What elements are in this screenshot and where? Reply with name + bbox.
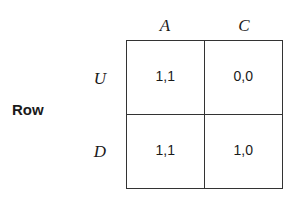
row-header-u: U [84, 67, 116, 91]
payoff-matrix-figure: Row A C U D 1,1 0,0 1,1 1,0 [0, 0, 295, 200]
row-player-label: Row [12, 99, 72, 121]
payoff-matrix-grid: 1,1 0,0 1,1 1,0 [126, 40, 283, 189]
matrix-cell-u-c: 0,0 [205, 41, 283, 115]
matrix-cell-u-a: 1,1 [127, 41, 205, 115]
column-header-c: C [205, 14, 283, 38]
payoff-value: 1,1 [156, 142, 175, 158]
matrix-cell-d-a: 1,1 [127, 115, 205, 189]
matrix-cell-d-c: 1,0 [205, 115, 283, 189]
column-header-a: A [126, 14, 204, 38]
payoff-value: 1,0 [234, 142, 253, 158]
payoff-value: 0,0 [234, 68, 253, 84]
payoff-value: 1,1 [156, 68, 175, 84]
row-header-d: D [84, 140, 116, 164]
